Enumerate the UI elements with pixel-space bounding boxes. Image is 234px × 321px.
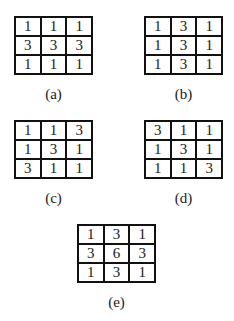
matrix-cell: 1 xyxy=(66,17,92,36)
matrix-cell: 1 xyxy=(15,140,41,159)
matrix-row: 3 6 3 xyxy=(78,244,155,263)
matrix-cell: 3 xyxy=(41,36,67,55)
matrix-cell: 1 xyxy=(78,225,104,244)
matrix-row: 3 1 1 xyxy=(145,121,222,140)
matrix-cell: 1 xyxy=(78,263,104,282)
matrix-cell: 1 xyxy=(41,55,67,74)
matrix-cell: 3 xyxy=(104,225,130,244)
panel-a: 1 1 1 3 3 3 1 1 1 (a) xyxy=(14,16,94,75)
matrix-cell: 1 xyxy=(196,55,222,74)
matrix-cell: 1 xyxy=(145,36,171,55)
matrix-cell: 1 xyxy=(129,263,155,282)
matrix-cell: 1 xyxy=(171,121,197,140)
matrix-cell: 3 xyxy=(104,263,130,282)
matrix-d: 3 1 1 1 3 1 1 1 3 xyxy=(144,120,223,179)
matrix-row: 1 3 1 xyxy=(78,263,155,282)
matrix-cell: 3 xyxy=(171,17,197,36)
matrix-a: 1 1 1 3 3 3 1 1 1 xyxy=(14,16,93,75)
panel-d: 3 1 1 1 3 1 1 1 3 (d) xyxy=(144,120,224,179)
matrix-row: 1 1 3 xyxy=(15,121,92,140)
matrix-cell: 3 xyxy=(66,121,92,140)
matrix-cell: 1 xyxy=(15,17,41,36)
matrix-cell: 1 xyxy=(196,121,222,140)
caption-d: (d) xyxy=(144,190,223,207)
matrix-cell: 1 xyxy=(129,225,155,244)
matrix-cell: 3 xyxy=(41,140,67,159)
matrix-row: 1 3 1 xyxy=(15,140,92,159)
matrix-cell: 1 xyxy=(66,159,92,178)
matrix-cell: 3 xyxy=(15,36,41,55)
matrix-cell: 1 xyxy=(196,36,222,55)
matrix-cell: 3 xyxy=(78,244,104,263)
matrix-c: 1 1 3 1 3 1 3 1 1 xyxy=(14,120,93,179)
matrix-row: 3 1 1 xyxy=(15,159,92,178)
matrix-cell: 1 xyxy=(41,159,67,178)
matrix-cell: 1 xyxy=(145,17,171,36)
matrix-row: 1 3 1 xyxy=(145,140,222,159)
matrix-row: 1 1 1 xyxy=(15,55,92,74)
matrix-row: 1 3 1 xyxy=(145,17,222,36)
matrix-row: 1 3 1 xyxy=(145,55,222,74)
matrix-cell: 1 xyxy=(66,55,92,74)
matrix-row: 3 3 3 xyxy=(15,36,92,55)
matrix-cell: 3 xyxy=(171,55,197,74)
matrix-row: 1 1 3 xyxy=(145,159,222,178)
matrix-cell: 1 xyxy=(41,17,67,36)
matrix-cell: 3 xyxy=(171,140,197,159)
panel-c: 1 1 3 1 3 1 3 1 1 (c) xyxy=(14,120,94,179)
caption-a: (a) xyxy=(14,86,93,103)
matrix-cell: 3 xyxy=(66,36,92,55)
matrix-cell: 1 xyxy=(145,140,171,159)
matrix-cell: 3 xyxy=(196,159,222,178)
matrix-cell: 3 xyxy=(171,36,197,55)
matrix-cell: 1 xyxy=(196,17,222,36)
caption-c: (c) xyxy=(14,190,93,207)
matrix-cell: 1 xyxy=(171,159,197,178)
matrix-b: 1 3 1 1 3 1 1 3 1 xyxy=(144,16,223,75)
matrix-row: 1 3 1 xyxy=(78,225,155,244)
matrix-cell: 3 xyxy=(145,121,171,140)
caption-b: (b) xyxy=(144,86,223,103)
matrix-cell: 1 xyxy=(41,121,67,140)
matrix-cell: 1 xyxy=(15,55,41,74)
matrix-e: 1 3 1 3 6 3 1 3 1 xyxy=(77,224,156,283)
matrix-cell: 3 xyxy=(129,244,155,263)
matrix-cell: 1 xyxy=(196,140,222,159)
matrix-cell: 6 xyxy=(104,244,130,263)
matrix-cell: 3 xyxy=(15,159,41,178)
panel-b: 1 3 1 1 3 1 1 3 1 (b) xyxy=(144,16,224,75)
caption-e: (e) xyxy=(77,294,156,311)
matrix-cell: 1 xyxy=(66,140,92,159)
matrix-row: 1 3 1 xyxy=(145,36,222,55)
panel-e: 1 3 1 3 6 3 1 3 1 (e) xyxy=(77,224,157,283)
matrix-cell: 1 xyxy=(15,121,41,140)
matrix-row: 1 1 1 xyxy=(15,17,92,36)
matrix-cell: 1 xyxy=(145,159,171,178)
matrix-cell: 1 xyxy=(145,55,171,74)
